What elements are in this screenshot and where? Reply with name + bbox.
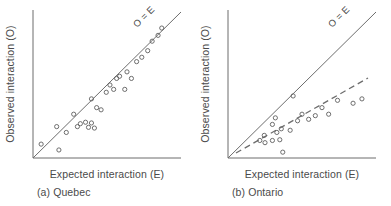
- data-point: [104, 90, 108, 94]
- data-point: [360, 97, 364, 101]
- data-point: [275, 130, 279, 134]
- data-point: [295, 119, 299, 123]
- data-point: [117, 74, 121, 78]
- data-point: [86, 125, 90, 129]
- y-axis-title: Observed interaction (O): [4, 25, 16, 142]
- identity-line-label: O = E: [131, 4, 157, 30]
- data-point: [78, 122, 82, 126]
- identity-line: [33, 12, 181, 158]
- panel-caption: (b) Ontario: [232, 186, 283, 198]
- data-point: [89, 121, 93, 125]
- x-axis-title: Expected interaction (E): [245, 168, 359, 180]
- data-point: [156, 33, 160, 37]
- data-point: [307, 117, 311, 121]
- data-point: [83, 120, 87, 124]
- data-point: [99, 108, 103, 112]
- data-point: [273, 116, 277, 120]
- data-point: [125, 70, 129, 74]
- data-point: [55, 125, 59, 129]
- plot-quebec: O = E Observed interaction (O) Expected …: [0, 0, 196, 206]
- data-point: [150, 39, 154, 43]
- data-point: [95, 106, 99, 110]
- data-point: [288, 128, 292, 132]
- data-point: [327, 112, 331, 116]
- panel-ontario: O = E Observed interaction (O) Expected …: [195, 0, 391, 206]
- data-point: [160, 26, 164, 30]
- x-axis-title: Expected interaction (E): [50, 168, 164, 180]
- data-point: [335, 98, 339, 102]
- data-point: [72, 112, 76, 116]
- data-point: [123, 87, 127, 91]
- data-point: [112, 87, 116, 91]
- panel-quebec: O = E Observed interaction (O) Expected …: [0, 0, 196, 206]
- identity-line-label: O = E: [326, 4, 352, 30]
- data-point: [270, 122, 274, 126]
- data-point: [108, 83, 112, 87]
- data-point: [263, 141, 267, 145]
- data-point: [320, 106, 324, 110]
- data-point: [278, 138, 282, 142]
- panel-caption: (a) Quebec: [37, 186, 91, 198]
- data-point: [351, 101, 355, 105]
- data-point: [313, 114, 317, 118]
- data-point: [281, 150, 285, 154]
- data-point: [135, 60, 139, 64]
- data-point: [57, 148, 61, 152]
- data-point: [291, 94, 295, 98]
- y-axis-title: Observed interaction (O): [199, 25, 211, 142]
- data-point: [39, 142, 43, 146]
- plot-ontario: O = E Observed interaction (O) Expected …: [195, 0, 391, 206]
- data-points-ontario: [258, 94, 364, 154]
- data-point: [129, 76, 133, 80]
- identity-line: [228, 12, 376, 158]
- data-point: [140, 55, 144, 59]
- data-point: [146, 49, 150, 53]
- fit-line: [236, 78, 368, 153]
- data-point: [64, 130, 68, 134]
- figure-container: O = E Observed interaction (O) Expected …: [0, 0, 391, 206]
- data-point: [270, 138, 274, 142]
- data-point: [92, 126, 96, 130]
